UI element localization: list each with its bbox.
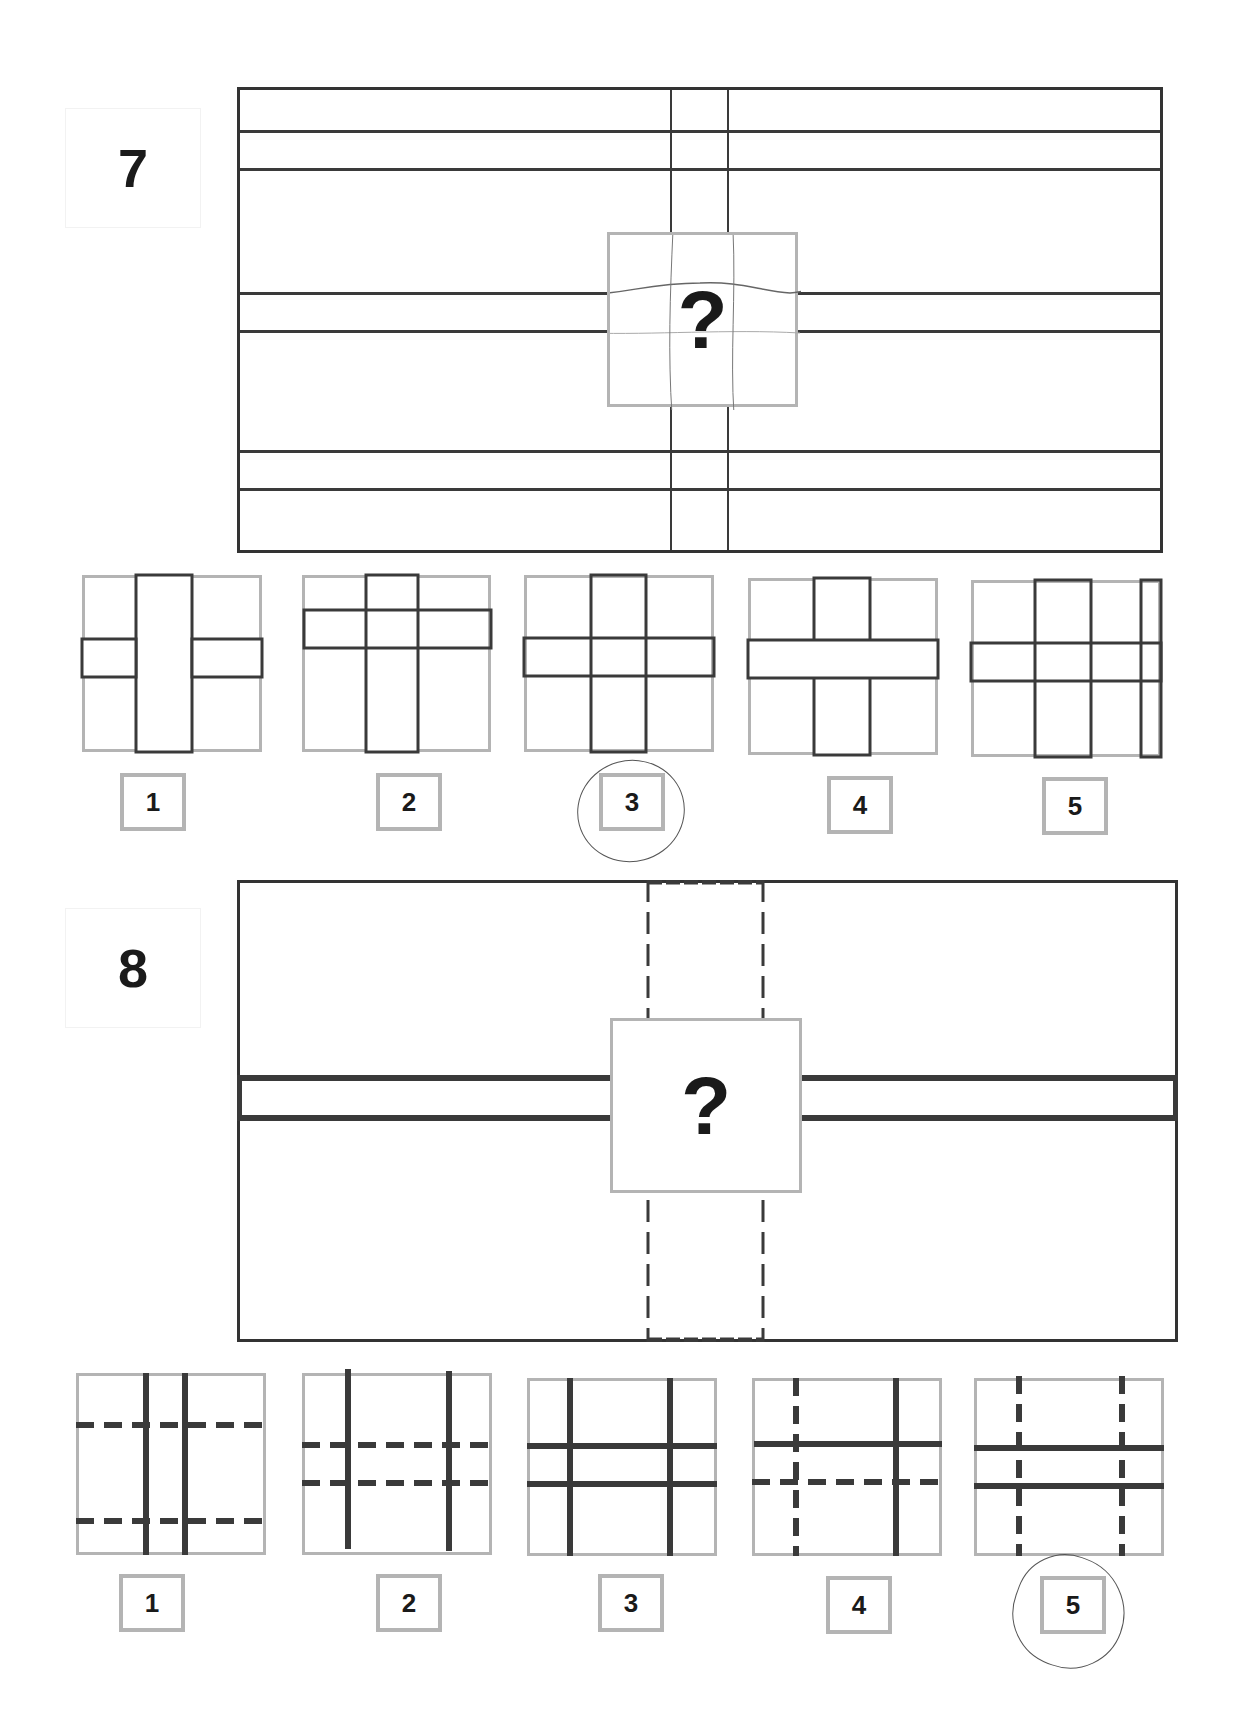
answer-number: 3 bbox=[624, 1588, 638, 1619]
q7-option-4-figure[interactable] bbox=[748, 578, 938, 755]
answer-number: 5 bbox=[1066, 1590, 1080, 1621]
answer-number: 1 bbox=[146, 787, 160, 818]
q7-option-2-figure[interactable] bbox=[302, 575, 491, 752]
missing-piece-box: ? bbox=[610, 1018, 802, 1193]
q8-answer-label-3[interactable]: 3 bbox=[598, 1574, 664, 1632]
missing-piece-box: ? bbox=[607, 232, 798, 407]
pattern-line bbox=[240, 130, 1160, 133]
q8-answer-label-4[interactable]: 4 bbox=[826, 1576, 892, 1634]
q7-answer-label-4[interactable]: 4 bbox=[827, 776, 893, 834]
q7-answer-label-5[interactable]: 5 bbox=[1042, 777, 1108, 835]
q8-option-3-figure[interactable] bbox=[527, 1378, 717, 1556]
option-figure bbox=[971, 580, 1161, 757]
answer-number: 5 bbox=[1068, 791, 1082, 822]
option-figure bbox=[302, 1373, 492, 1555]
q8-option-4-figure[interactable] bbox=[752, 1378, 942, 1556]
pattern-line bbox=[240, 488, 1160, 491]
q8-option-5-figure[interactable] bbox=[974, 1378, 1164, 1556]
q8-option-1-figure[interactable] bbox=[76, 1373, 266, 1555]
q8-answer-label-1[interactable]: 1 bbox=[119, 1574, 185, 1632]
question-number-8: 8 bbox=[65, 908, 201, 1028]
option-figure bbox=[82, 575, 262, 752]
answer-number: 3 bbox=[625, 787, 639, 818]
answer-number: 4 bbox=[852, 1590, 866, 1621]
pattern-line bbox=[240, 450, 1160, 453]
question-8-pattern-panel: ? bbox=[237, 880, 1178, 1342]
q8-answer-label-2[interactable]: 2 bbox=[376, 1574, 442, 1632]
q7-answer-label-2[interactable]: 2 bbox=[376, 773, 442, 831]
answer-number: 2 bbox=[402, 787, 416, 818]
q8-answer-label-5[interactable]: 5 bbox=[1040, 1576, 1106, 1634]
q8-option-2-figure[interactable] bbox=[302, 1373, 492, 1555]
pencil-sketch bbox=[610, 235, 801, 410]
option-figure bbox=[974, 1378, 1164, 1556]
question-mark: ? bbox=[681, 1059, 731, 1153]
q7-option-5-figure[interactable] bbox=[971, 580, 1161, 757]
answer-number: 4 bbox=[853, 790, 867, 821]
option-figure bbox=[524, 575, 714, 752]
question-number-label: 8 bbox=[118, 937, 148, 999]
q7-answer-label-3[interactable]: 3 bbox=[599, 773, 665, 831]
q7-option-3-figure[interactable] bbox=[524, 575, 714, 752]
option-figure bbox=[76, 1373, 266, 1555]
q7-option-1-figure[interactable] bbox=[82, 575, 262, 752]
option-figure bbox=[748, 578, 938, 755]
answer-number: 2 bbox=[402, 1588, 416, 1619]
q7-answer-label-1[interactable]: 1 bbox=[120, 773, 186, 831]
pattern-line bbox=[240, 168, 1160, 171]
option-figure bbox=[752, 1378, 942, 1556]
option-figure bbox=[527, 1378, 717, 1556]
question-number-7: 7 bbox=[65, 108, 201, 228]
question-7-pattern-panel: ? bbox=[237, 87, 1163, 553]
question-number-label: 7 bbox=[118, 137, 148, 199]
answer-number: 1 bbox=[145, 1588, 159, 1619]
option-figure bbox=[302, 575, 491, 752]
